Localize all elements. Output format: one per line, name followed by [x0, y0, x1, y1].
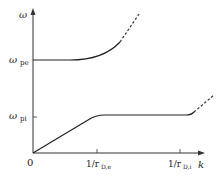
origin-label: 0 [27, 157, 33, 168]
y-axis-arrow-icon [31, 8, 36, 15]
svg-text:ω: ω [9, 54, 17, 65]
svg-text:pi: pi [20, 115, 27, 123]
svg-text:1/r: 1/r [86, 159, 100, 169]
x-axis-arrow-icon [198, 151, 205, 156]
electron-branch-solid [33, 42, 120, 60]
kdi-label: 1/r D,i [168, 159, 192, 170]
wpi-label: ω pi [9, 110, 27, 123]
svg-text:pe: pe [20, 59, 29, 67]
svg-text:D,i: D,i [183, 163, 192, 170]
ticks [33, 117, 180, 153]
dispersion-diagram: ω k 0 ω pe ω pi 1/r D,e 1/r D,i [0, 0, 224, 178]
axes [33, 12, 200, 153]
kde-label: 1/r D,e [86, 159, 112, 170]
wpe-label: ω pe [9, 54, 29, 67]
ion-branch-solid [33, 112, 194, 153]
ion-branch-dashed [194, 95, 214, 112]
x-axis-label: k [198, 159, 204, 170]
electron-branch-dashed [120, 14, 139, 42]
svg-text:1/r: 1/r [168, 159, 182, 169]
y-axis-label: ω [19, 9, 27, 20]
svg-text:D,e: D,e [101, 163, 112, 170]
svg-text:ω: ω [9, 110, 17, 121]
